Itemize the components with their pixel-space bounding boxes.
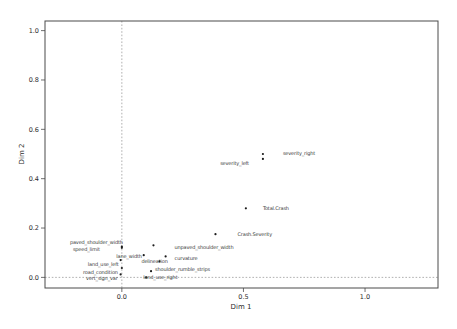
y-axis-tick-label: 0.0 bbox=[29, 274, 39, 282]
data-point bbox=[214, 233, 216, 235]
data-point bbox=[165, 255, 167, 257]
y-axis-title: Dim 2 bbox=[18, 144, 26, 165]
data-point bbox=[121, 247, 123, 249]
point-label: paved_shoulder_width bbox=[70, 239, 123, 246]
point-label: unpaved_shoulder_width bbox=[174, 244, 233, 251]
mca-scatter-figure: 0.00.20.40.60.81.0 0.00.51.0 severity_ri… bbox=[0, 0, 457, 329]
point-label: shoulder_rumble_strips bbox=[155, 266, 210, 273]
y-axis-tick-label: 0.2 bbox=[29, 224, 39, 232]
data-point bbox=[262, 153, 264, 155]
point-label: land_use_left bbox=[88, 261, 119, 268]
data-point bbox=[120, 259, 122, 261]
y-axis: 0.00.20.40.60.81.0 bbox=[29, 27, 45, 282]
point-label: vert_sign_var bbox=[86, 275, 119, 282]
data-point bbox=[152, 244, 154, 246]
data-point bbox=[245, 207, 247, 209]
point-label: land_use_right bbox=[143, 274, 177, 281]
point-label: Total.Crash bbox=[262, 205, 289, 211]
x-axis: 0.00.51.0 bbox=[117, 288, 371, 301]
point-label: severity_left bbox=[220, 160, 249, 167]
plot-frame bbox=[45, 21, 438, 288]
point-label: lane_width bbox=[116, 253, 141, 260]
point-label: severity_right bbox=[283, 150, 315, 157]
data-point bbox=[143, 254, 145, 256]
point-label: speed_limit bbox=[73, 246, 100, 253]
point-label: curvature bbox=[175, 255, 198, 261]
x-axis-tick-label: 1.0 bbox=[360, 293, 370, 301]
y-axis-tick-label: 0.8 bbox=[29, 76, 39, 84]
point-label: delineation bbox=[141, 258, 167, 264]
data-point bbox=[262, 158, 264, 160]
data-point bbox=[120, 273, 122, 275]
point-labels: severity_rightseverity_leftTotal.CrashCr… bbox=[70, 150, 315, 282]
data-point bbox=[150, 270, 152, 272]
x-axis-tick-label: 0.5 bbox=[238, 293, 248, 301]
x-axis-title: Dim 1 bbox=[231, 303, 252, 311]
point-label: Crash.Severity bbox=[237, 231, 272, 238]
scatter-plot-canvas: 0.00.20.40.60.81.0 0.00.51.0 severity_ri… bbox=[0, 0, 457, 329]
data-point bbox=[121, 267, 123, 269]
y-axis-tick-label: 1.0 bbox=[29, 27, 39, 35]
x-axis-tick-label: 0.0 bbox=[117, 293, 127, 301]
y-axis-tick-label: 0.6 bbox=[29, 126, 39, 134]
zero-reference-lines bbox=[45, 21, 438, 288]
y-axis-tick-label: 0.4 bbox=[29, 175, 39, 183]
